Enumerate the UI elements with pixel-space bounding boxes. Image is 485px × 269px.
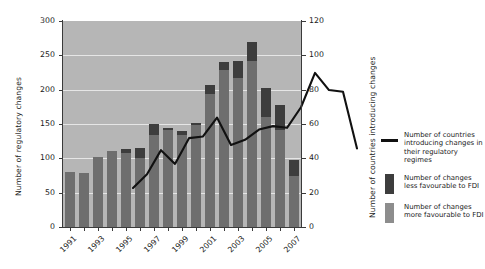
line-series [126,42,364,248]
right-tick-label: 0 [309,222,314,231]
left-tick-label: 0 [23,222,55,231]
left-tick-label: 150 [23,119,55,128]
right-tick [302,90,306,91]
right-tick-label: 120 [309,16,324,25]
x-tick [168,228,169,231]
x-tick [98,228,99,231]
legend-label: Number of countriesintroducing changes i… [404,131,485,165]
bar-1992 [79,173,90,227]
legend-item-2: Number of changesmore favourable to FDI [381,203,485,223]
x-tick [140,228,141,231]
x-tick [266,228,267,231]
x-tick [210,228,211,231]
right-axis-title: Number of countries introducing changes [368,56,377,218]
legend-label: Number of changesmore favourable to FDI [404,203,485,220]
x-tick [154,228,155,231]
bar-1991 [65,172,76,227]
x-tick [126,228,127,231]
bar-segment-more-favourable [107,151,118,227]
left-tick [59,90,63,91]
left-tick-label: 100 [23,153,55,162]
x-tick [70,228,71,231]
x-tick-label-1993: 1993 [80,234,106,260]
right-tick-label: 80 [309,85,319,94]
left-tick [59,193,63,194]
line-path [133,73,357,188]
legend-color-swatch [385,174,394,194]
x-tick-label-1991: 1991 [52,234,78,260]
left-tick [59,124,63,125]
left-tick-label: 200 [23,85,55,94]
right-tick [302,158,306,159]
right-tick-label: 40 [309,153,319,162]
left-axis-title: Number of regulatory changes [14,77,23,196]
chart-figure: Number of regulatory changes Number of c… [0,0,485,269]
legend-line-swatch [381,139,398,142]
left-tick [59,55,63,56]
bar-1993 [93,157,104,227]
x-tick [224,228,225,231]
x-tick [238,228,239,231]
x-tick [112,228,113,231]
legend-color-swatch [385,203,394,223]
x-tick [294,228,295,231]
legend-label: Number of changesless favourable to FDI [404,174,485,191]
left-tick [59,21,63,22]
right-tick [302,193,306,194]
right-tick-label: 20 [309,188,319,197]
left-tick-label: 300 [23,16,55,25]
x-tick [196,228,197,231]
bar-segment-more-favourable [93,157,104,227]
bar-segment-more-favourable [65,172,76,227]
legend: Number of countriesintroducing changes i… [381,131,485,232]
right-tick [302,227,306,228]
x-tick [252,228,253,231]
left-tick-label: 50 [23,188,55,197]
legend-item-0: Number of countriesintroducing changes i… [381,131,485,165]
right-tick [302,124,306,125]
legend-item-1: Number of changesless favourable to FDI [381,174,485,194]
left-tick-label: 250 [23,50,55,59]
x-tick [84,228,85,231]
x-tick [182,228,183,231]
left-tick [59,158,63,159]
right-tick-label: 60 [309,119,319,128]
bar-1994 [107,151,118,227]
plot-area [63,21,301,227]
right-tick [302,21,306,22]
right-tick-label: 100 [309,50,324,59]
right-tick [302,55,306,56]
left-tick [59,227,63,228]
bar-segment-more-favourable [79,173,90,227]
x-tick [280,228,281,231]
